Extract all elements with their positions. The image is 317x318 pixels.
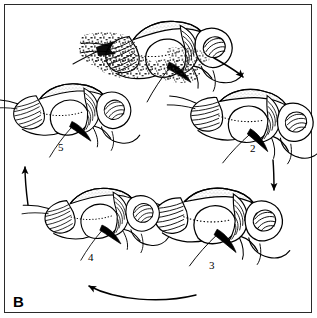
arrow-1-to-2: [214, 58, 243, 77]
panel-number-4: 4: [88, 252, 94, 263]
panel-number-2: 2: [250, 143, 256, 154]
diagram-canvas: [0, 0, 317, 318]
panel-4-drawing: [21, 184, 170, 264]
figure-panel-b: 5 2 4 3 B: [0, 0, 317, 318]
panel-number-5: 5: [58, 142, 64, 153]
arrow-2-to-3: [273, 160, 274, 190]
panel-number-3: 3: [209, 260, 215, 271]
arrow-4-to-5: [25, 167, 28, 205]
panel-5-drawing: [0, 80, 141, 160]
figure-panel-letter: B: [13, 294, 24, 309]
arrow-3-to-4: [89, 286, 196, 300]
panel-2-drawing: [163, 84, 317, 170]
